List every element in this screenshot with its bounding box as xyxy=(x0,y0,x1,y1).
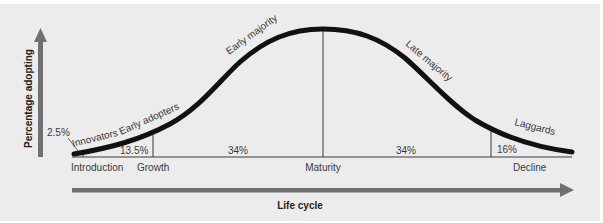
early-adopters-percent: 13.5% xyxy=(120,145,148,156)
stage-growth: Growth xyxy=(137,162,169,173)
laggards-percent: 16% xyxy=(497,144,517,155)
innovators-percent: 2.5% xyxy=(47,127,70,138)
late-majority-percent: 34% xyxy=(396,145,416,156)
y-axis-arrow xyxy=(34,28,47,157)
x-axis-arrow xyxy=(72,183,574,197)
laggards-label: Laggards xyxy=(514,116,557,137)
early-majority-percent: 34% xyxy=(228,145,248,156)
stage-maturity: Maturity xyxy=(305,162,341,173)
stage-decline: Decline xyxy=(513,162,547,173)
x-axis-label: Life cycle xyxy=(277,200,323,211)
y-axis-label: Percentage adopting xyxy=(23,49,34,148)
adoption-curve-diagram: Percentage adopting Life cycle 2.5% Inno… xyxy=(0,0,603,223)
stage-introduction: Introduction xyxy=(71,162,123,173)
